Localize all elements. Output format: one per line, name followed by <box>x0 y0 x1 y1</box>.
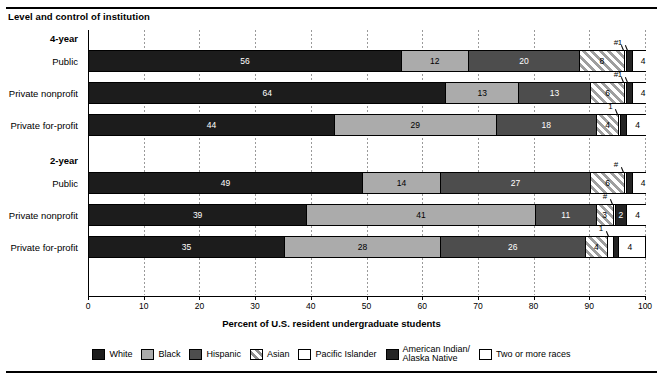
bar-segment-black[interactable]: 13 <box>445 83 517 103</box>
bar-segment-asian[interactable]: 3 <box>596 205 613 225</box>
bar-segment-black[interactable]: 41 <box>306 205 534 225</box>
stacked-bar[interactable]: 64131364 <box>88 82 646 104</box>
bar-segment-hispanic[interactable]: 18 <box>496 115 596 135</box>
top-divider <box>6 7 657 9</box>
x-tick-label: 0 <box>86 301 91 311</box>
row-label: Private for-profit <box>10 242 78 253</box>
x-tick <box>478 296 479 300</box>
legend-label-pacific-islander: Pacific Islander <box>315 350 376 359</box>
legend-swatch-pacific-islander <box>298 349 311 360</box>
row-label: Private for-profit <box>10 120 78 131</box>
bar-segment-white[interactable]: 44 <box>89 115 334 135</box>
group-label-2-year: 2-year <box>50 155 78 166</box>
legend-swatch-black <box>141 349 154 360</box>
legend-item-asian: Asian <box>250 349 290 360</box>
segment-callout-label: 1 <box>618 39 622 47</box>
bar-segment-white[interactable]: 49 <box>89 173 362 193</box>
x-tick <box>422 296 423 300</box>
segment-callout-label: 1 <box>599 225 603 233</box>
bar-segment-american-indian-alaska-native[interactable]: 2 <box>615 205 626 225</box>
plot-area: #156122084#164131364144291844#49142764#3… <box>88 30 645 295</box>
x-tick-label: 100 <box>638 301 652 311</box>
x-tick <box>367 296 368 300</box>
x-tick-label: 40 <box>306 301 315 311</box>
stacked-bar[interactable]: 49142764 <box>88 172 646 194</box>
row-label: Private nonprofit <box>9 210 78 221</box>
bar-segment-white[interactable]: 56 <box>89 51 401 71</box>
stacked-bar[interactable]: 394111324 <box>88 204 646 226</box>
bar-segment-asian[interactable]: 6 <box>590 173 623 193</box>
bar-segment-asian[interactable]: 4 <box>585 237 607 257</box>
chart-legend: WhiteBlackHispanicAsianPacific IslanderA… <box>0 345 663 364</box>
row-label: Private nonprofit <box>9 88 78 99</box>
legend-swatch-white <box>92 349 105 360</box>
legend-item-american-indian-alaska-native: American Indian/ Alaska Native <box>386 345 471 364</box>
bar-segment-black[interactable]: 28 <box>284 237 440 257</box>
x-tick <box>144 296 145 300</box>
legend-label-asian: Asian <box>267 350 290 359</box>
x-tick-label: 20 <box>195 301 204 311</box>
stacked-bar[interactable]: 44291844 <box>88 114 646 136</box>
x-tick-label: 60 <box>417 301 426 311</box>
legend-label-american-indian-alaska-native: American Indian/ Alaska Native <box>403 345 471 364</box>
x-tick-label: 70 <box>473 301 482 311</box>
bar-segment-asian[interactable]: 4 <box>596 115 618 135</box>
x-tick-label: 90 <box>585 301 594 311</box>
x-tick <box>589 296 590 300</box>
legend-item-two-or-more-races: Two or more races <box>479 349 571 360</box>
legend-label-white: White <box>109 350 132 359</box>
bottom-divider <box>6 371 657 373</box>
segment-callout-label: # <box>603 193 607 201</box>
bar-segment-white[interactable]: 39 <box>89 205 306 225</box>
chart-subtitle: Level and control of institution <box>8 11 150 22</box>
x-tick <box>88 296 89 300</box>
bar-segment-black[interactable]: 12 <box>401 51 468 71</box>
legend-item-black: Black <box>141 349 180 360</box>
bar-segment-black[interactable]: 29 <box>334 115 496 135</box>
bar-segment-hispanic[interactable]: 11 <box>535 205 596 225</box>
legend-label-black: Black <box>158 350 180 359</box>
legend-label-hispanic: Hispanic <box>206 350 241 359</box>
legend-swatch-american-indian-alaska-native <box>386 349 399 360</box>
bar-segment-hispanic[interactable]: 26 <box>440 237 585 257</box>
bar-segment-two-or-more-races[interactable]: 4 <box>632 51 654 71</box>
bar-segment-two-or-more-races[interactable]: 4 <box>626 205 648 225</box>
bar-segment-white[interactable]: 35 <box>89 237 284 257</box>
bar-segment-white[interactable]: 64 <box>89 83 445 103</box>
legend-swatch-asian <box>250 349 263 360</box>
bar-segment-hispanic[interactable]: 13 <box>518 83 590 103</box>
segment-callout-label: # <box>614 161 618 169</box>
stacked-bar[interactable]: 35282644 <box>88 236 646 258</box>
x-tick <box>645 296 646 300</box>
x-tick <box>534 296 535 300</box>
stacked-bar[interactable]: 56122084 <box>88 50 646 72</box>
segment-callout-label: 1 <box>608 103 612 111</box>
legend-item-hispanic: Hispanic <box>189 349 241 360</box>
group-label-4-year: 4-year <box>50 33 78 44</box>
x-axis-title: Percent of U.S. resident undergraduate s… <box>0 318 663 329</box>
bar-segment-asian[interactable]: 6 <box>590 83 623 103</box>
bar-segment-two-or-more-races[interactable]: 4 <box>626 115 648 135</box>
bar-segment-asian[interactable]: 8 <box>579 51 624 71</box>
legend-item-pacific-islander: Pacific Islander <box>298 349 376 360</box>
y-axis-label-column: 4-yearPublicPrivate nonprofitPrivate for… <box>0 30 84 296</box>
legend-swatch-hispanic <box>189 349 202 360</box>
x-tick <box>255 296 256 300</box>
x-tick-label: 10 <box>139 301 148 311</box>
x-tick-label: 30 <box>250 301 259 311</box>
bar-segment-black[interactable]: 14 <box>362 173 440 193</box>
segment-callout-label: 1 <box>618 71 622 79</box>
legend-item-white: White <box>92 349 132 360</box>
legend-label-two-or-more-races: Two or more races <box>496 350 571 359</box>
legend-swatch-two-or-more-races <box>479 349 492 360</box>
bar-segment-hispanic[interactable]: 27 <box>440 173 590 193</box>
bar-segment-two-or-more-races[interactable]: 4 <box>618 237 640 257</box>
bar-segment-hispanic[interactable]: 20 <box>468 51 579 71</box>
row-label: Public <box>52 178 78 189</box>
bar-segment-two-or-more-races[interactable]: 4 <box>632 173 654 193</box>
row-label: Public <box>52 56 78 67</box>
x-tick <box>311 296 312 300</box>
bar-segment-two-or-more-races[interactable]: 4 <box>632 83 654 103</box>
x-tick-label: 50 <box>362 301 371 311</box>
x-tick <box>199 296 200 300</box>
